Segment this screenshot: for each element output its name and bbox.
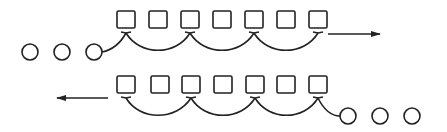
box-node xyxy=(245,11,263,28)
top-row xyxy=(22,11,380,60)
circle-node xyxy=(404,108,420,124)
bottom-arcs xyxy=(121,97,340,116)
diagram-canvas xyxy=(0,0,447,132)
top-boxes xyxy=(117,11,327,28)
bottom-input-circles xyxy=(340,108,420,124)
box-node xyxy=(246,76,264,93)
arc-connector xyxy=(126,98,191,115)
bottom-boxes xyxy=(117,76,327,93)
circle-node xyxy=(22,44,38,60)
box-node xyxy=(117,11,135,28)
arc-connector xyxy=(126,33,190,50)
arc-connector xyxy=(190,33,254,50)
arrowhead-mark xyxy=(186,97,196,98)
circle-node xyxy=(372,108,388,124)
box-node xyxy=(214,76,232,93)
arc-connector xyxy=(255,98,318,115)
circle-node xyxy=(54,44,70,60)
arc-connector xyxy=(318,98,340,116)
box-node xyxy=(117,76,135,93)
box-node xyxy=(213,11,231,28)
box-node xyxy=(277,76,295,93)
bottom-row xyxy=(57,76,420,124)
box-node xyxy=(149,11,167,28)
arrowhead-mark xyxy=(121,32,131,33)
arrowhead-mark xyxy=(121,97,131,98)
arrowhead-mark xyxy=(185,32,195,33)
box-node xyxy=(309,11,327,28)
arrowhead-mark xyxy=(313,97,323,98)
arrowhead-mark xyxy=(249,32,259,33)
arc-connector xyxy=(254,33,318,50)
arc-connector xyxy=(191,98,255,115)
box-node xyxy=(277,11,295,28)
circle-node xyxy=(86,44,102,60)
box-node xyxy=(151,76,169,93)
box-node xyxy=(309,76,327,93)
top-arcs xyxy=(102,32,323,52)
box-node xyxy=(181,11,199,28)
arc-connector xyxy=(102,33,126,52)
arrowhead-mark xyxy=(313,32,323,33)
box-node xyxy=(182,76,200,93)
arrowhead-mark xyxy=(250,97,260,98)
circle-node xyxy=(340,108,356,124)
top-input-circles xyxy=(22,44,102,60)
